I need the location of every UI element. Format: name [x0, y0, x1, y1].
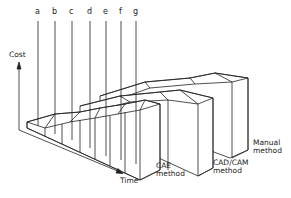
cost-time-diagram: a b c d e f g Cost Time CAE method CAD/C… [0, 0, 291, 198]
stage-label-f: f [119, 8, 122, 17]
manual-method-label: Manual method [253, 139, 282, 156]
cadcam-method-label: CAD/CAM method [213, 159, 249, 176]
cae-method-label: CAE method [156, 162, 185, 179]
stage-label-c: c [69, 8, 73, 17]
cae-method-block [27, 100, 160, 180]
stage-label-e: e [103, 8, 108, 17]
stage-label-g: g [133, 8, 138, 17]
stage-label-d: d [87, 8, 92, 17]
stage-label-b: b [52, 8, 57, 17]
stage-label-a: a [35, 8, 40, 17]
cost-axis-label: Cost [9, 51, 26, 59]
time-axis-label: Time [120, 177, 138, 185]
